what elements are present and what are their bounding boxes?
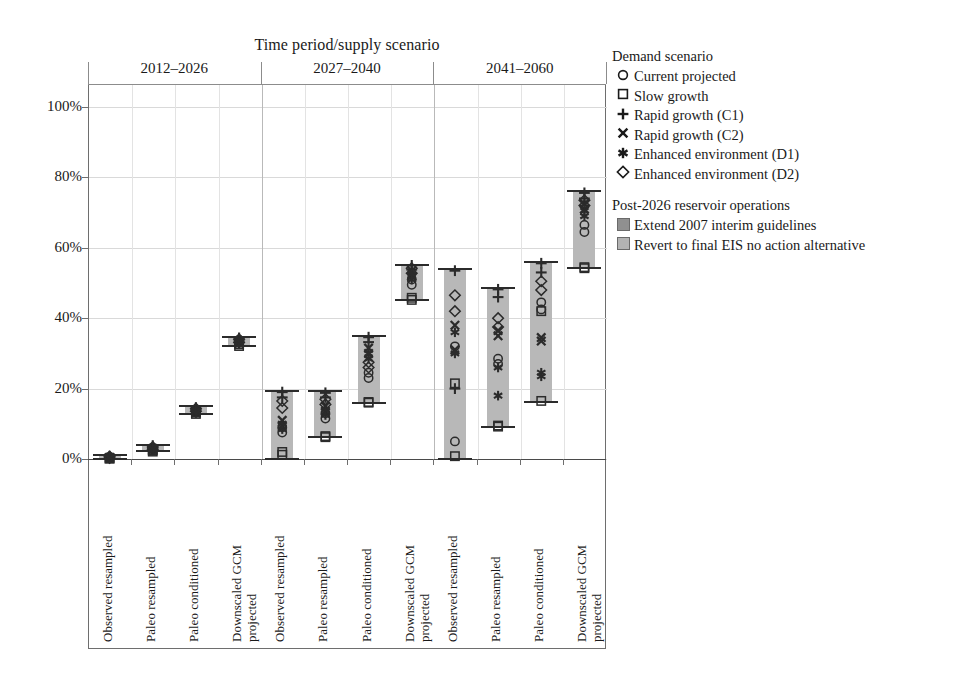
- square-icon: [615, 86, 631, 102]
- whisker-max: [524, 261, 558, 263]
- legend-demand-label: Slow growth: [634, 88, 709, 105]
- x-axis-label-12: Downscaled GCMprojected: [575, 472, 604, 642]
- x-axis-label-line: Downscaled GCM: [402, 545, 417, 642]
- y-axis-tick-label: 80%: [26, 168, 82, 185]
- x-axis-label-line: Paleo resampled: [488, 556, 503, 642]
- whisker-max: [481, 287, 515, 289]
- gridline-vertical: [564, 85, 565, 459]
- x-axis-label-line: projected: [244, 594, 259, 642]
- period-group-1: 2012–2026: [88, 60, 261, 84]
- legend-demand-title: Demand scenario: [612, 48, 964, 65]
- legend-symbol: [612, 164, 634, 184]
- period-group-3: 2041–2060: [433, 60, 606, 84]
- y-axis-tick-label: 100%: [26, 98, 82, 115]
- x-axis-label-8: Downscaled GCMprojected: [403, 472, 432, 642]
- x-axis-label-line: Paleo conditioned: [359, 548, 374, 642]
- plus-icon: [615, 106, 631, 122]
- x-axis-tick-mark: [563, 459, 564, 465]
- x-axis-tick-mark: [218, 459, 219, 465]
- legend-demand-label: Enhanced environment (D2): [634, 166, 799, 183]
- x-axis-label-line: Paleo conditioned: [186, 548, 201, 642]
- legend-demand-row-6[interactable]: Enhanced environment (D2): [612, 165, 964, 185]
- y-axis-tick-label: 0%: [26, 450, 82, 467]
- legend-demand-row-2[interactable]: Slow growth: [612, 87, 964, 107]
- whisker-min: [136, 450, 170, 452]
- box-extend-guidelines: [530, 262, 552, 402]
- period-group-2: 2027–2040: [261, 60, 434, 84]
- whisker-max: [136, 444, 170, 446]
- cross-icon: [615, 125, 631, 141]
- legend-demand-row-4[interactable]: Rapid growth (C2): [612, 126, 964, 146]
- box-extend-guidelines: [358, 336, 380, 403]
- legend-ops-row-2[interactable]: Revert to final EIS no action alternativ…: [612, 236, 964, 256]
- box-extend-guidelines: [401, 265, 423, 300]
- period-separator-tick: [433, 62, 434, 84]
- x-axis-tick-mark: [304, 459, 305, 465]
- box-extend-guidelines: [573, 191, 595, 268]
- x-axis-label-line: projected: [589, 594, 604, 642]
- legend-color-swatch: [617, 237, 630, 250]
- whisker-max: [567, 190, 601, 192]
- whisker-min: [395, 299, 429, 301]
- y-axis-tick-mark: [82, 248, 88, 249]
- legend-symbol: [612, 145, 634, 165]
- box-extend-guidelines: [444, 269, 466, 459]
- legend-symbol: [612, 125, 634, 145]
- legend-demand-row-5[interactable]: Enhanced environment (D1): [612, 145, 964, 165]
- legend-symbol: [612, 86, 634, 106]
- legend-color-swatch: [617, 218, 630, 231]
- whisker-min: [524, 401, 558, 403]
- chart-title: Time period/supply scenario: [88, 36, 606, 54]
- y-axis-tick-label: 60%: [26, 239, 82, 256]
- legend-demand-label: Current projected: [634, 68, 736, 85]
- legend-ops-items: Extend 2007 interim guidelinesRevert to …: [612, 216, 964, 255]
- x-axis-label-line: Observed resampled: [272, 536, 287, 643]
- x-axis-label-line: Downscaled GCM: [229, 545, 244, 642]
- whisker-max: [222, 336, 256, 338]
- legend-symbol: [612, 67, 634, 87]
- gridline-vertical: [305, 85, 306, 459]
- period-edge-tick-0: [88, 62, 89, 84]
- whisker-max: [352, 335, 386, 337]
- whisker-min: [352, 402, 386, 404]
- legend-demand-row-1[interactable]: Current projected: [612, 67, 964, 87]
- legend-swatch-wrap: [612, 236, 634, 254]
- gridline-vertical: [521, 85, 522, 459]
- legend-demand-row-3[interactable]: Rapid growth (C1): [612, 106, 964, 126]
- whisker-min: [93, 458, 127, 460]
- box-extend-guidelines: [487, 288, 509, 427]
- whisker-max: [179, 405, 213, 407]
- chart-root: Time period/supply scenario 2012–2026202…: [0, 0, 970, 687]
- x-axis-tick-mark: [433, 459, 434, 465]
- y-axis-tick-mark: [82, 389, 88, 390]
- period-edge-tick-1: [606, 62, 607, 84]
- gridline-vertical: [132, 85, 133, 459]
- x-axis-tick-mark: [347, 459, 348, 465]
- y-axis-tick-label: 20%: [26, 380, 82, 397]
- x-axis-tick-mark: [520, 459, 521, 465]
- legend-demand-label: Rapid growth (C1): [634, 107, 744, 124]
- legend: Demand scenario Current projectedSlow gr…: [612, 48, 964, 255]
- x-axis-label-6: Paleo resampled: [316, 472, 331, 642]
- legend-ops-label: Extend 2007 interim guidelines: [634, 217, 816, 234]
- whisker-min: [179, 413, 213, 415]
- x-axis-tick-mark: [477, 459, 478, 465]
- x-axis-label-line: Downscaled GCM: [574, 545, 589, 642]
- whisker-max: [93, 454, 127, 456]
- x-axis-label-2: Paleo resampled: [144, 472, 159, 642]
- x-axis-tick-mark: [261, 459, 262, 465]
- x-axis-label-line: Observed resampled: [445, 536, 460, 643]
- whisker-min: [438, 458, 472, 460]
- legend-spacer: [612, 184, 964, 197]
- x-axis-label-line: Observed resampled: [100, 536, 115, 643]
- x-axis-label-line: Paleo conditioned: [531, 548, 546, 642]
- circle-icon: [615, 67, 631, 83]
- whisker-max: [395, 264, 429, 266]
- legend-demand-items: Current projectedSlow growthRapid growth…: [612, 67, 964, 184]
- legend-ops-row-1[interactable]: Extend 2007 interim guidelines: [612, 216, 964, 236]
- legend-symbol: [612, 106, 634, 126]
- box-extend-guidelines: [271, 391, 293, 459]
- whisker-min: [265, 458, 299, 460]
- whisker-max: [438, 268, 472, 270]
- whisker-min: [222, 345, 256, 347]
